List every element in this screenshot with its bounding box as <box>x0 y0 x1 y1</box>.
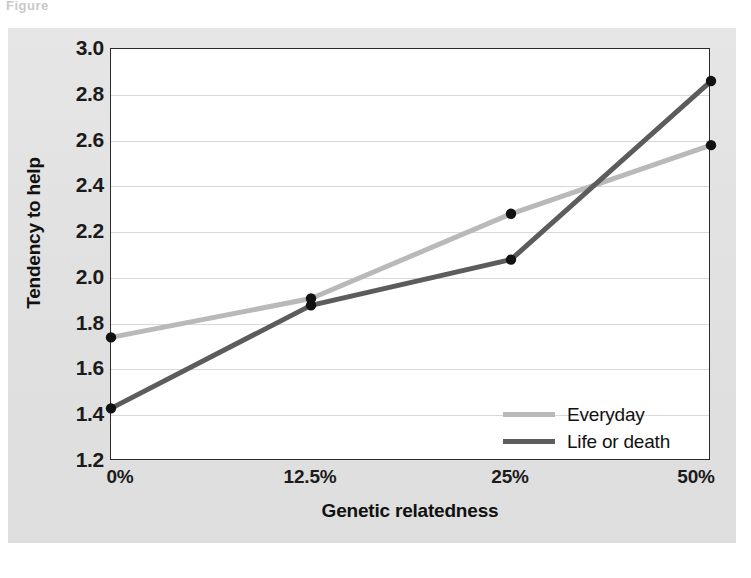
y-tick-label: 2.0 <box>56 265 104 289</box>
x-tick-label: 50% <box>677 466 714 488</box>
legend: Everyday Life or death <box>503 401 703 455</box>
legend-item-life-or-death: Life or death <box>503 428 703 455</box>
legend-swatch-life-or-death <box>503 439 555 444</box>
y-tick-label: 2.6 <box>56 128 104 152</box>
x-tick-label: 0% <box>106 466 133 488</box>
data-point-marker <box>706 140 716 150</box>
legend-label-life-or-death: Life or death <box>567 431 670 453</box>
data-point-marker <box>506 254 516 264</box>
plot-area: Everyday Life or death <box>110 48 710 460</box>
series-line <box>111 81 711 408</box>
series-line <box>111 145 711 337</box>
data-point-marker <box>506 209 516 219</box>
y-tick-label: 1.2 <box>56 448 104 472</box>
y-tick-label: 3.0 <box>56 36 104 60</box>
y-tick-label: 2.2 <box>56 219 104 243</box>
x-tick-label: 25% <box>491 466 528 488</box>
data-point-marker <box>106 332 116 342</box>
legend-item-everyday: Everyday <box>503 401 703 428</box>
y-tick-label: 2.4 <box>56 173 104 197</box>
y-axis-title: Tendency to help <box>23 103 45 363</box>
data-point-marker <box>706 76 716 86</box>
series-layer <box>111 49 711 461</box>
x-axis-title: Genetic relatedness <box>110 500 710 522</box>
y-axis-tick-labels: 3.02.82.62.42.22.01.81.61.41.2 <box>48 48 104 460</box>
y-tick-label: 1.4 <box>56 402 104 426</box>
data-point-marker <box>106 403 116 413</box>
legend-label-everyday: Everyday <box>567 404 645 426</box>
cropped-caption-sliver: Figure <box>6 0 126 14</box>
x-axis-tick-labels: 0%12.5%25%50% <box>110 466 710 494</box>
x-tick-label: 12.5% <box>284 466 337 488</box>
y-tick-label: 1.8 <box>56 311 104 335</box>
y-tick-label: 2.8 <box>56 82 104 106</box>
figure-root: Figure 3.02.82.62.42.22.01.81.61.41.2 Ev… <box>0 0 751 578</box>
data-point-marker <box>306 300 316 310</box>
y-tick-label: 1.6 <box>56 356 104 380</box>
legend-swatch-everyday <box>503 412 555 417</box>
